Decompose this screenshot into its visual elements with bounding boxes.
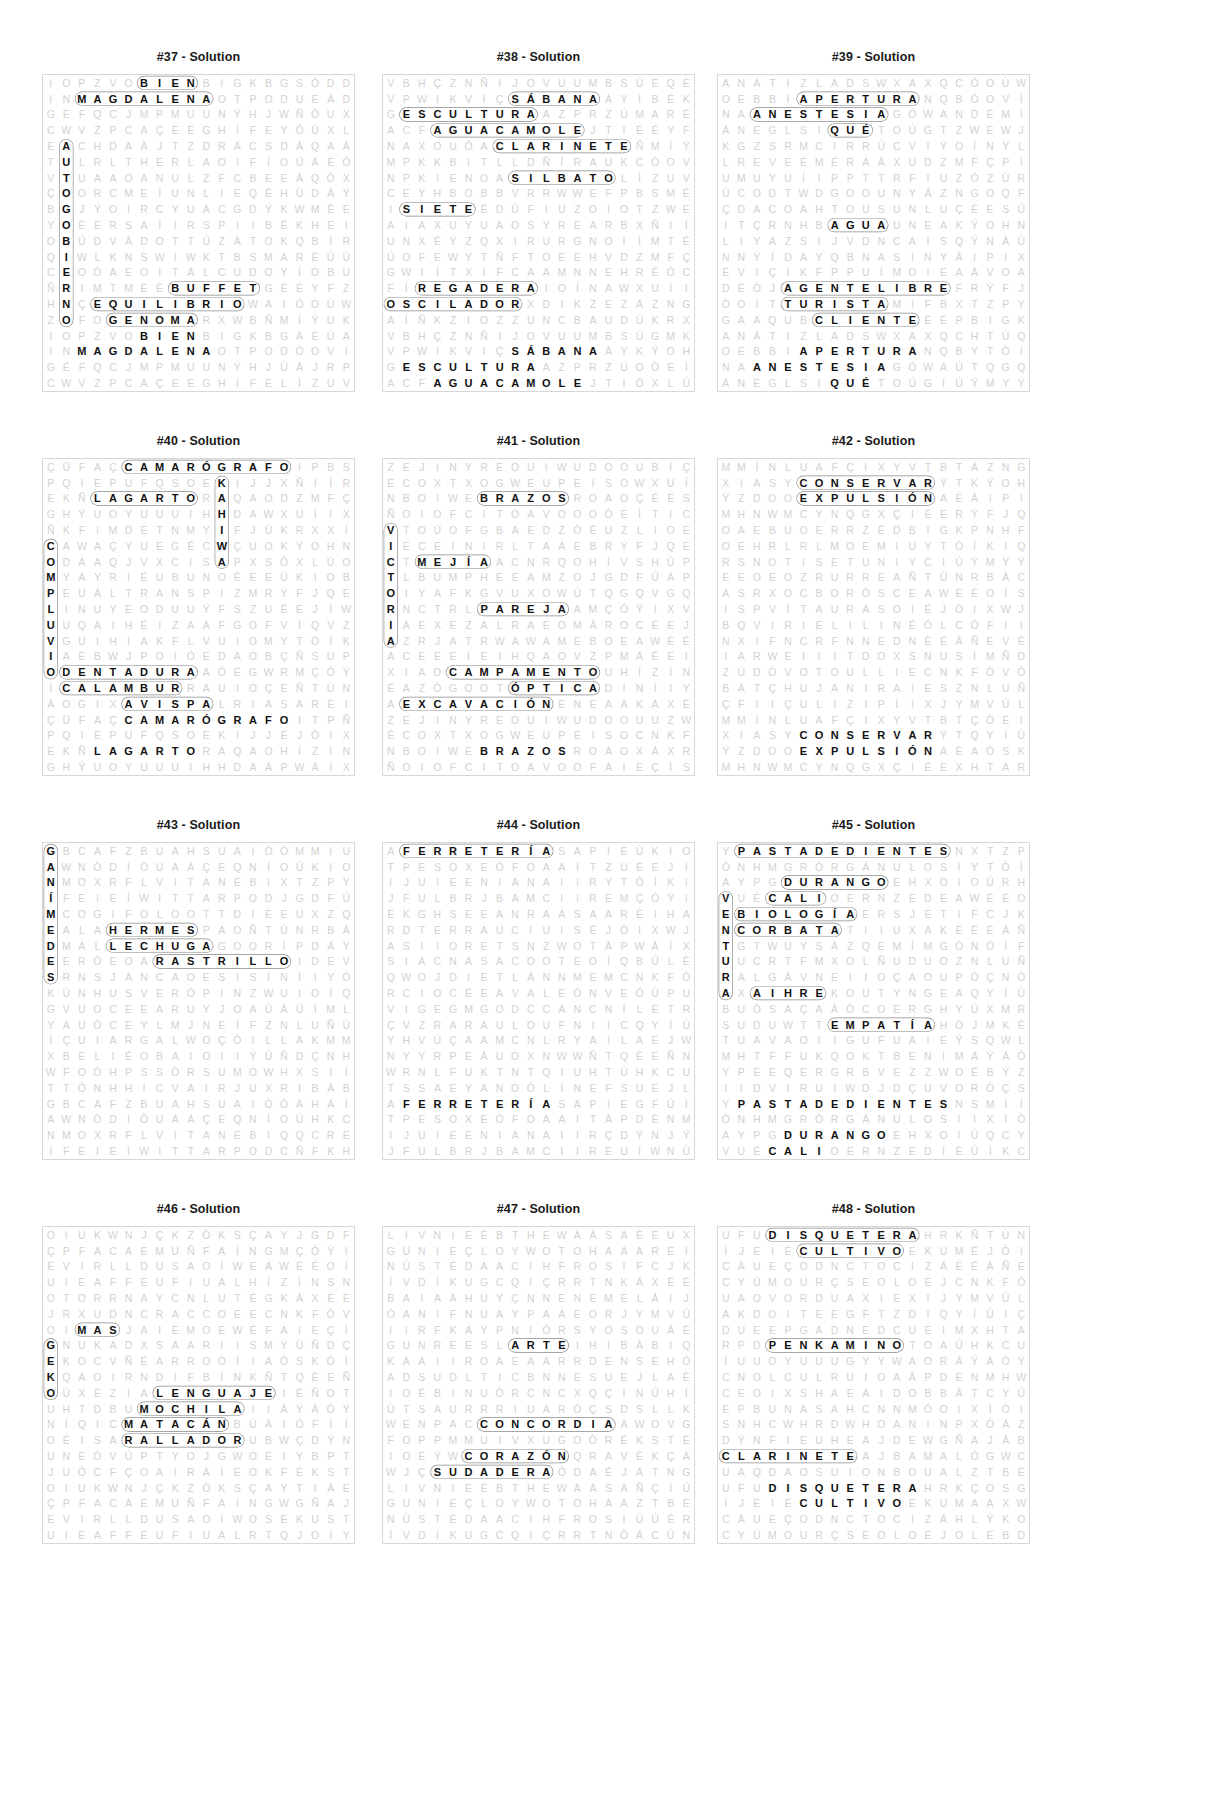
filler-letter: I <box>780 1306 796 1322</box>
filler-letter: I <box>796 617 812 633</box>
filler-letter: E <box>230 875 246 891</box>
filler-letter: A <box>905 1033 921 1049</box>
filler-letter: D <box>152 1369 168 1385</box>
filler-letter: F <box>230 522 246 538</box>
filler-letter: N <box>951 186 967 202</box>
filler-letter: Z <box>507 312 523 328</box>
filler-letter: W <box>105 649 121 665</box>
filler-letter: A <box>199 664 215 680</box>
filler-letter: Z <box>858 522 874 538</box>
filler-letter: E <box>905 1432 921 1448</box>
filler-letter: W <box>414 91 430 107</box>
filler-letter: É <box>874 522 890 538</box>
filler-letter: A <box>199 201 215 217</box>
solution-letter: S <box>936 1096 952 1112</box>
solution-letter: T <box>245 280 261 296</box>
filler-letter: L <box>292 1017 308 1033</box>
filler-letter: X <box>920 328 936 344</box>
filler-letter: G <box>920 375 936 391</box>
filler-letter: D <box>749 1338 765 1354</box>
filler-letter: É <box>920 506 936 522</box>
solution-letter: C <box>414 296 430 312</box>
filler-letter: U <box>183 1001 199 1017</box>
filler-letter: E <box>827 554 843 570</box>
solution-letter: M <box>74 91 90 107</box>
solution-letter: A <box>827 1338 843 1354</box>
filler-letter: V <box>998 664 1014 680</box>
solution-letter: C <box>570 680 586 696</box>
filler-letter: Z <box>601 359 617 375</box>
filler-letter: F <box>967 154 983 170</box>
letter-grid: YPASTADEDIENTESNXTZPÒNHMGRÒRGÁNULOSIYTÒÍ… <box>717 842 1030 1160</box>
solution-letter: O <box>276 459 292 475</box>
filler-letter: Ì <box>323 233 339 249</box>
filler-letter: M <box>152 1243 168 1259</box>
filler-letter: G <box>245 664 261 680</box>
filler-letter: R <box>183 680 199 696</box>
filler-letter: U <box>430 570 446 586</box>
filler-letter: A <box>152 1033 168 1049</box>
filler-letter: V <box>905 138 921 154</box>
filler-letter: M <box>307 491 323 507</box>
filler-letter: O <box>399 1432 415 1448</box>
filler-letter: N <box>414 1306 430 1322</box>
filler-letter: N <box>632 680 648 696</box>
filler-letter: R <box>507 617 523 633</box>
filler-letter: T <box>476 1369 492 1385</box>
filler-letter: I <box>430 491 446 507</box>
filler-letter: P <box>43 728 59 744</box>
filler-letter: Ì <box>663 664 679 680</box>
filler-letter: X <box>414 233 430 249</box>
filler-letter: I <box>430 1496 446 1512</box>
filler-letter: Y <box>461 217 477 233</box>
filler-letter: Z <box>889 1143 905 1159</box>
filler-letter: N <box>920 1048 936 1064</box>
solution-letter: E <box>616 138 632 154</box>
filler-letter: S <box>136 249 152 265</box>
filler-letter: V <box>399 1527 415 1543</box>
filler-letter: C <box>199 538 215 554</box>
filler-letter: N <box>601 1001 617 1017</box>
filler-letter: Ó <box>183 985 199 1001</box>
filler-letter: E <box>616 506 632 522</box>
filler-letter: K <box>920 1496 936 1512</box>
filler-letter: U <box>632 712 648 728</box>
filler-letter: Ú <box>616 359 632 375</box>
filler-letter: Ú <box>905 122 921 138</box>
filler-letter: D <box>136 233 152 249</box>
filler-letter: É <box>780 1243 796 1259</box>
filler-letter: R <box>842 585 858 601</box>
filler-letter: R <box>430 1048 446 1064</box>
filler-letter: Ú <box>632 75 648 91</box>
filler-letter: Ó <box>632 375 648 391</box>
filler-letter: C <box>461 506 477 522</box>
filler-letter: X <box>678 312 694 328</box>
filler-letter: U <box>152 1259 168 1275</box>
filler-letter: E <box>632 759 648 775</box>
filler-letter: U <box>323 107 339 123</box>
solution-letter: R <box>523 1464 539 1480</box>
filler-letter: P <box>245 91 261 107</box>
solution-letter: Á <box>523 91 539 107</box>
filler-letter: Ò <box>616 922 632 938</box>
filler-letter: S <box>811 1464 827 1480</box>
filler-letter: O <box>982 1480 998 1496</box>
filler-letter: W <box>383 1464 399 1480</box>
filler-letter: C <box>230 170 246 186</box>
filler-letter: W <box>276 1432 292 1448</box>
filler-letter: A <box>554 1001 570 1017</box>
filler-letter: E <box>982 122 998 138</box>
filler-letter: Ñ <box>261 312 277 328</box>
filler-letter: E <box>492 570 508 586</box>
filler-letter: È <box>982 890 998 906</box>
filler-letter: O <box>632 1322 648 1338</box>
filler-letter: Q <box>276 1127 292 1143</box>
filler-letter: S <box>261 138 277 154</box>
filler-letter: S <box>601 1480 617 1496</box>
filler-letter: A <box>601 1496 617 1512</box>
filler-letter: R <box>492 538 508 554</box>
filler-letter: Ù <box>261 1048 277 1064</box>
filler-letter: K <box>383 1353 399 1369</box>
filler-letter: I <box>647 601 663 617</box>
filler-letter: D <box>323 1338 339 1354</box>
